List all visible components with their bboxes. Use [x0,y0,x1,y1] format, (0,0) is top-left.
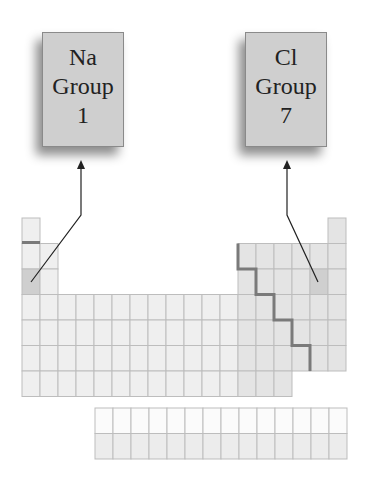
element-cell [328,295,346,321]
f-block-cell [293,434,311,460]
element-cell [40,346,58,372]
cl-group-number: 7 [246,101,326,130]
cl-group-word: Group [246,72,326,101]
element-cell [130,295,148,321]
element-cell-cl [310,269,328,295]
element-cell [238,371,256,397]
element-cell [40,244,58,270]
element-cell [256,346,274,372]
f-block-cell [203,434,221,460]
element-cell [256,244,274,270]
f-block-cell [275,408,293,434]
element-cell [58,346,76,372]
element-cell [22,218,40,244]
element-cell [94,320,112,346]
f-block-cell [275,434,293,460]
element-cell [58,371,76,397]
element-cell [148,320,166,346]
element-cell [328,346,346,372]
element-cell [256,320,274,346]
element-cell [76,320,94,346]
element-cell [274,244,292,270]
f-block-cell [167,434,185,460]
element-cell [310,295,328,321]
element-cell [184,295,202,321]
element-cell [256,371,274,397]
element-cell [112,371,130,397]
f-block-cell [239,434,257,460]
f-block-cell [185,408,203,434]
f-block-cell [113,408,131,434]
f-block-cell [311,434,329,460]
f-block-cell [203,408,221,434]
element-cell [22,320,40,346]
element-cell [310,320,328,346]
element-cell [328,218,346,244]
element-cell [274,346,292,372]
element-cell [220,295,238,321]
element-cell [22,346,40,372]
element-cell [94,371,112,397]
element-cell [58,295,76,321]
chlorine-group-label: Cl Group 7 [245,32,327,147]
element-cell [40,371,58,397]
f-block-cell [95,434,113,460]
element-cell [238,346,256,372]
element-cell [184,320,202,346]
element-cell [76,295,94,321]
element-cell [166,346,184,372]
f-block-cell [329,434,347,460]
f-block-cell [149,408,167,434]
f-block-cell [131,408,149,434]
element-cell [256,295,274,321]
element-cell [130,346,148,372]
element-cell [202,320,220,346]
element-cell [22,295,40,321]
element-cell [220,346,238,372]
element-cell [148,346,166,372]
f-block-cell [293,408,311,434]
element-cell [220,320,238,346]
f-block-cell [257,434,275,460]
element-cell [202,346,220,372]
f-block-cell [311,408,329,434]
element-cell [112,295,130,321]
element-cell [256,269,274,295]
element-cell [40,320,58,346]
cl-arrow-head-icon [283,160,291,169]
element-cell [130,371,148,397]
element-cell [238,269,256,295]
f-block-cell [221,408,239,434]
cl-symbol: Cl [246,43,326,72]
element-cell [184,371,202,397]
element-cell [292,320,310,346]
element-cell [292,269,310,295]
f-block-cell [113,434,131,460]
element-cell [22,244,40,270]
element-cell [238,320,256,346]
element-cell [58,320,76,346]
element-cell [166,371,184,397]
element-cell [40,295,58,321]
element-cell [94,346,112,372]
sodium-group-label: Na Group 1 [42,32,124,147]
element-cell [184,346,202,372]
na-group-number: 1 [43,101,123,130]
element-cell [274,295,292,321]
element-cell [274,320,292,346]
element-cell [292,346,310,372]
element-cell [274,269,292,295]
element-cell [292,244,310,270]
f-block-cell [131,434,149,460]
element-cell [328,244,346,270]
na-arrow-head-icon [77,160,85,169]
f-block-cell [221,434,239,460]
element-cell [238,244,256,270]
f-block-cell [185,434,203,460]
element-cell [328,320,346,346]
element-cell [274,371,292,397]
f-block-cell [167,408,185,434]
f-block-cell [329,408,347,434]
element-cell [292,295,310,321]
element-cell [40,269,58,295]
